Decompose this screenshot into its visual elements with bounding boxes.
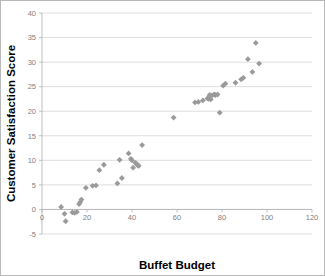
y-tick-label: 25 [28,82,36,91]
data-point [171,115,177,121]
data-point [101,162,107,168]
y-tick-label: 10 [28,156,36,165]
x-axis-title: Buffet Budget [139,259,215,271]
y-tick-label: 40 [28,9,36,18]
y-tick-label: -5 [29,230,36,239]
data-point [233,80,239,86]
data-point [63,218,69,224]
data-point [117,157,123,163]
x-tick-label: 100 [261,213,274,222]
x-tick-label: 40 [128,213,136,222]
data-point [256,61,262,67]
x-tick-label: 60 [173,213,181,222]
x-tick-label: 0 [40,213,44,222]
data-point [139,142,145,148]
y-tick-label: 35 [28,33,36,42]
y-tick-label: 15 [28,132,36,141]
y-tick-label: 5 [32,181,36,190]
data-point [253,40,259,46]
data-point [245,56,251,62]
data-point [119,175,125,181]
data-point [62,211,68,217]
data-point [114,181,120,187]
scatter-plot: -50510152025303540020406080100120Buffet … [1,1,325,276]
data-point [58,204,64,210]
x-tick-label: 80 [218,213,226,222]
data-point-group [58,40,262,224]
y-tick-label: 30 [28,58,36,67]
y-tick-label: 20 [28,107,36,116]
x-tick-label: 20 [83,213,91,222]
data-point [96,167,102,173]
data-point [249,69,255,75]
y-axis-title: Customer Satisfaction Score [5,45,17,202]
data-point [217,110,223,116]
y-tick-label: 0 [32,205,36,214]
chart-container: -50510152025303540020406080100120Buffet … [0,0,325,276]
x-tick-label: 120 [306,213,319,222]
data-point [83,185,89,191]
data-point [126,151,132,157]
